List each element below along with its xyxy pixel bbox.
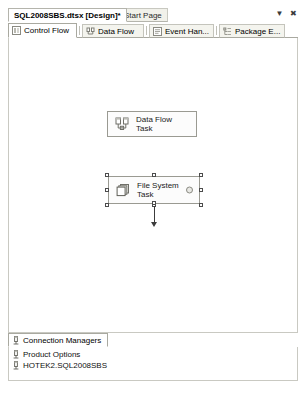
tab-data-flow[interactable]: Data Flow: [82, 24, 144, 38]
connection-manager-icon: [12, 350, 20, 359]
tab-connection-managers-label: Connection Managers: [23, 336, 101, 345]
document-tab-package[interactable]: SQL2008SBS.dtsx [Design]*: [8, 8, 127, 22]
event-handlers-icon: [153, 27, 162, 36]
tab-divider-1: [79, 26, 80, 35]
package-explorer-icon: [223, 27, 232, 36]
file-system-task[interactable]: File System Task: [108, 176, 200, 204]
document-tab-controls: ▼ ✖: [275, 9, 298, 18]
resize-handle-n[interactable]: [152, 173, 156, 177]
file-system-task-label: File System Task: [137, 181, 179, 199]
tab-package-explorer[interactable]: Package E...: [219, 24, 285, 38]
data-flow-task-label: Data Flow Task: [136, 115, 190, 133]
precedence-constraint-arrowhead: [151, 222, 157, 227]
resize-handle-ne[interactable]: [199, 173, 203, 177]
document-tabbar: SQL2008SBS.dtsx [Design]* Start Page ▼ ✖: [8, 8, 298, 24]
tab-event-handlers-label: Event Han...: [165, 27, 209, 36]
connection-managers-list[interactable]: Product Options HOTEK2.SQL2008SBS: [8, 347, 298, 381]
resize-handle-sw[interactable]: [105, 203, 109, 207]
control-flow-canvas[interactable]: Data Flow Task File System Task: [8, 38, 298, 333]
tab-divider-3: [216, 26, 217, 35]
resize-handle-e[interactable]: [199, 188, 203, 192]
resize-handle-nw[interactable]: [105, 173, 109, 177]
designer-panel: Control Flow Data Flow: [8, 23, 298, 333]
precedence-constraint-handle[interactable]: [152, 201, 156, 205]
tab-package-explorer-label: Package E...: [235, 27, 280, 36]
task-warning-icon[interactable]: [186, 187, 193, 194]
connection-manager-label: Product Options: [23, 350, 80, 359]
precedence-constraint-line: [154, 206, 155, 223]
data-flow-icon: [86, 27, 95, 36]
connection-managers-tabbar: Connection Managers: [8, 333, 298, 348]
tab-divider-2: [146, 26, 147, 35]
tab-connection-managers[interactable]: Connection Managers: [8, 333, 108, 347]
document-tab-package-label: SQL2008SBS.dtsx [Design]*: [14, 11, 121, 20]
resize-handle-se[interactable]: [199, 203, 203, 207]
designer-tabbar: Control Flow Data Flow: [8, 23, 298, 38]
close-icon[interactable]: ✖: [289, 9, 298, 18]
connection-manager-icon: [12, 361, 20, 370]
data-flow-task-icon: [114, 116, 130, 132]
list-item[interactable]: Product Options: [11, 349, 297, 360]
tab-control-flow[interactable]: Control Flow: [8, 23, 77, 38]
control-flow-icon: [12, 26, 21, 35]
connection-managers-panel: Connection Managers Product Options: [8, 333, 298, 383]
document-tab-start-page-label: Start Page: [124, 11, 162, 20]
connection-manager-label: HOTEK2.SQL2008SBS: [23, 361, 107, 370]
file-system-task-icon: [115, 182, 131, 198]
ssis-designer-window: SQL2008SBS.dtsx [Design]* Start Page ▼ ✖…: [8, 8, 298, 386]
resize-handle-w[interactable]: [105, 188, 109, 192]
connection-manager-icon: [12, 336, 20, 345]
tab-event-handlers[interactable]: Event Han...: [149, 24, 214, 38]
list-item[interactable]: HOTEK2.SQL2008SBS: [11, 360, 297, 371]
tab-control-flow-label: Control Flow: [24, 26, 69, 35]
data-flow-task[interactable]: Data Flow Task: [107, 111, 197, 137]
tab-data-flow-label: Data Flow: [98, 27, 134, 36]
chevron-down-icon[interactable]: ▼: [275, 9, 284, 18]
